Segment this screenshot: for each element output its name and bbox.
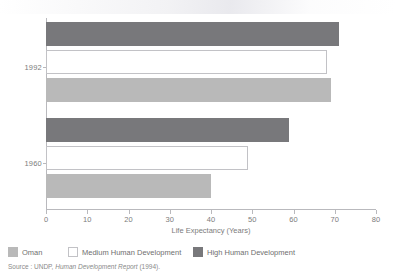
x-axis-tick-label-50: 50 [240,215,264,224]
legend-swatch-medium-icon [68,247,78,257]
legend-item-high-human-development[interactable]: High Human Development [193,247,295,257]
x-axis-tick-0 [46,210,47,214]
bar-1960-medium-human-development[interactable] [46,146,248,170]
x-axis-tick-label-40: 40 [199,215,223,224]
x-axis-tick-label-80: 80 [364,215,388,224]
x-axis-tick-10 [87,210,88,214]
life-expectancy-bar-chart: 1992 1960 01020304050607080 Life Expecta… [0,0,396,280]
bar-1992-medium-human-development[interactable] [46,50,327,74]
bar-group-1960 [46,118,376,200]
source-suffix: (1994). [138,263,160,270]
source-note: Source : UNDP, Human Development Report … [8,263,160,270]
x-axis-tick-label-30: 30 [158,215,182,224]
y-axis-group-label-1992: 1992 [0,63,42,72]
legend-item-oman[interactable]: Oman [8,247,42,257]
bar-group-1992 [46,22,376,104]
x-axis-tick-label-60: 60 [282,215,306,224]
x-axis-tick-20 [129,210,130,214]
x-axis-tick-50 [252,210,253,214]
bar-1960-oman[interactable] [46,174,211,198]
legend-item-medium-human-development[interactable]: Medium Human Development [68,247,181,257]
x-axis-tick-30 [170,210,171,214]
source-title: Human Development Report [55,263,137,270]
x-axis-tick-60 [294,210,295,214]
legend-label-oman: Oman [22,248,42,257]
x-axis-tick-label-0: 0 [34,215,58,224]
source-prefix: Source : UNDP, [8,263,55,270]
x-axis-tick-label-70: 70 [323,215,347,224]
x-axis-tick-70 [335,210,336,214]
legend-swatch-oman-icon [8,247,18,257]
x-axis-title: Life Expectancy (Years) [46,226,376,235]
bar-1992-oman[interactable] [46,78,331,102]
legend-swatch-high-icon [193,247,203,257]
x-axis-tick-label-10: 10 [75,215,99,224]
x-axis-tick-label-20: 20 [117,215,141,224]
chart-legend: Oman Medium Human Development High Human… [8,247,388,259]
plot-area [46,18,376,210]
legend-label-high-human-development: High Human Development [207,248,295,257]
x-axis-tick-40 [211,210,212,214]
bar-1992-high-human-development[interactable] [46,22,339,46]
bar-1960-high-human-development[interactable] [46,118,289,142]
x-axis-tick-80 [376,210,377,214]
legend-label-medium-human-development: Medium Human Development [82,248,181,257]
y-axis-group-label-1960: 1960 [0,159,42,168]
